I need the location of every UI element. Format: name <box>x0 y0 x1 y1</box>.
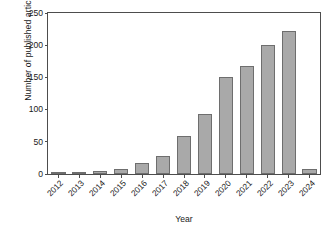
y-axis-tick-mark <box>45 45 49 46</box>
y-axis-tick-label: 100 <box>29 103 43 115</box>
bar <box>135 163 149 174</box>
x-axis-tick-label-text: 2012 <box>45 178 65 198</box>
bar <box>240 66 254 174</box>
x-axis-tick-label-text: 2019 <box>192 178 212 198</box>
x-axis-tick-label-text: 2022 <box>255 178 275 198</box>
y-axis-tick-mark <box>45 174 49 175</box>
x-axis-tick-label-text: 2018 <box>171 178 191 198</box>
bar <box>261 45 275 174</box>
x-axis-title: Year <box>47 214 321 224</box>
y-axis-tick-label: 0 <box>38 168 43 180</box>
x-axis-tick-label-text: 2014 <box>87 178 107 198</box>
x-axis-tick-label-text: 2016 <box>129 178 149 198</box>
bar <box>282 31 296 174</box>
y-axis-tick-label: 250 <box>29 7 43 19</box>
x-axis-tick-mark <box>58 174 59 178</box>
bar <box>219 77 233 174</box>
x-axis-tick-label-text: 2021 <box>234 178 254 198</box>
x-axis-tick-mark <box>79 174 80 178</box>
bar <box>198 114 212 174</box>
x-axis-tick-label-text: 2020 <box>213 178 233 198</box>
x-axis-tick-label-text: 2024 <box>296 178 316 198</box>
bar <box>156 156 170 174</box>
y-axis-tick-label: 150 <box>29 71 43 83</box>
y-axis-tick-mark <box>45 109 49 110</box>
x-axis-tick-label-text: 2013 <box>66 178 86 198</box>
y-axis-tick-mark <box>45 77 49 78</box>
y-axis-tick-mark <box>45 141 49 142</box>
x-axis-tick-label-text: 2023 <box>275 178 295 198</box>
plot-area: 0501001502002502012201320142015201620172… <box>47 12 321 175</box>
y-axis-tick-label: 50 <box>33 136 43 148</box>
x-axis-tick-label-text: 2017 <box>150 178 170 198</box>
bar-chart-figure: Number of published articles 05010015020… <box>0 0 335 233</box>
bar <box>177 136 191 174</box>
y-axis-tick-label: 200 <box>29 39 43 51</box>
x-axis-tick-label-text: 2015 <box>108 178 128 198</box>
y-axis-tick-mark <box>45 13 49 14</box>
